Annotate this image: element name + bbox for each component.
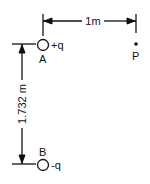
- arrow-down-icon: [19, 155, 25, 163]
- charge-b-value: -q: [51, 159, 61, 171]
- point-p-dot: [134, 42, 138, 46]
- arrow-up-icon: [19, 45, 25, 53]
- point-p-label: P: [132, 50, 139, 62]
- charge-diagram: 1m 1.732 m +q A -q B P: [0, 0, 150, 184]
- arrow-right-icon: [127, 18, 135, 24]
- charge-a-circle: [38, 40, 49, 51]
- charge-a-label: A: [39, 53, 47, 65]
- charge-b-label: B: [39, 146, 46, 158]
- horizontal-dimension-label: 1m: [85, 15, 100, 27]
- charge-a-value: +q: [51, 39, 64, 51]
- vertical-dimension-label: 1.732 m: [16, 84, 28, 124]
- charge-b-circle: [38, 160, 49, 171]
- arrow-left-icon: [44, 18, 52, 24]
